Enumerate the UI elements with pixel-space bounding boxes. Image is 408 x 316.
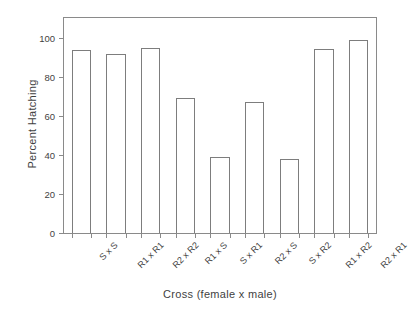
- x-tick-mark: [160, 234, 161, 238]
- x-tick-mark: [349, 234, 350, 238]
- y-tick-label: 0: [0, 228, 63, 239]
- x-tick-mark: [210, 234, 211, 238]
- x-tick-label: R2 x R2: [170, 240, 200, 270]
- x-tick-label: S x S: [98, 240, 120, 262]
- x-tick-label: R1 x R1: [136, 240, 166, 270]
- x-tick-label: R2 x S: [273, 240, 299, 266]
- x-tick-mark: [314, 234, 315, 238]
- bar: [314, 49, 333, 233]
- bar: [245, 102, 264, 233]
- x-tick-mark: [195, 234, 196, 238]
- x-tick-mark: [91, 234, 92, 238]
- bar: [210, 157, 229, 233]
- bar: [141, 48, 160, 233]
- x-tick-mark: [334, 234, 335, 238]
- x-tick-label: S x R2: [307, 240, 333, 266]
- x-tick-label: R2 x R1: [378, 240, 408, 270]
- y-tick-label: 100: [0, 32, 63, 43]
- bars-layer: [64, 18, 376, 233]
- bar: [106, 54, 125, 233]
- x-tick-label: R1 x S: [203, 240, 229, 266]
- x-tick-mark: [230, 234, 231, 238]
- x-axis-title: Cross (female x male): [63, 288, 377, 300]
- plot-area-frame: [63, 17, 377, 234]
- x-tick-mark: [264, 234, 265, 238]
- bar: [72, 50, 91, 233]
- x-tick-mark: [126, 234, 127, 238]
- y-axis-title: Percent Hatching: [26, 44, 38, 204]
- x-tick-mark: [72, 234, 73, 238]
- x-tick-mark: [141, 234, 142, 238]
- bar: [349, 40, 368, 234]
- x-tick-mark: [106, 234, 107, 238]
- x-tick-mark: [245, 234, 246, 238]
- x-tick-label: R1 x R2: [344, 240, 374, 270]
- bar: [176, 98, 195, 233]
- bar: [280, 159, 299, 233]
- x-tick-mark: [299, 234, 300, 238]
- x-tick-mark: [280, 234, 281, 238]
- x-tick-mark: [368, 234, 369, 238]
- x-tick-label: S x R1: [238, 240, 264, 266]
- x-tick-mark: [176, 234, 177, 238]
